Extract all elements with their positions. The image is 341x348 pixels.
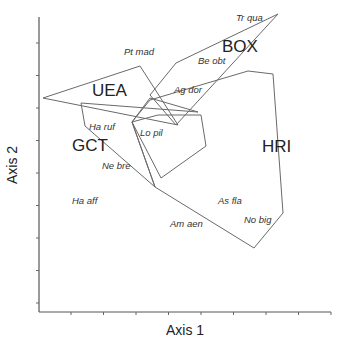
species-label: As fla: [217, 195, 242, 206]
ordination-plot: UEABOXGCTHRI Tr quaPt madBe obtAg dorHa …: [0, 0, 341, 348]
species-label: Ha ruf: [89, 121, 116, 132]
species-label: Be obt: [198, 55, 226, 66]
species-label: No big: [244, 214, 272, 225]
species-label: Ha aff: [72, 195, 99, 206]
species-label: Lo pil: [140, 127, 164, 138]
y-axis-label: Axis 2: [4, 146, 20, 184]
species-label: Tr qua: [236, 12, 263, 23]
group-label-hri: HRI: [262, 137, 291, 156]
species-label: Ag dor: [173, 84, 203, 95]
x-axis-label: Axis 1: [166, 322, 204, 338]
group-label-box: BOX: [222, 37, 258, 56]
species-label: Am aen: [169, 218, 203, 229]
species-label: Ne bre: [102, 160, 131, 171]
hull-lopil: [132, 115, 206, 178]
group-label-uea: UEA: [92, 81, 128, 100]
group-label-gct: GCT: [72, 136, 108, 155]
hull-box: [150, 14, 278, 125]
species-label: Pt mad: [124, 46, 155, 57]
group-labels: UEABOXGCTHRI: [72, 37, 291, 156]
